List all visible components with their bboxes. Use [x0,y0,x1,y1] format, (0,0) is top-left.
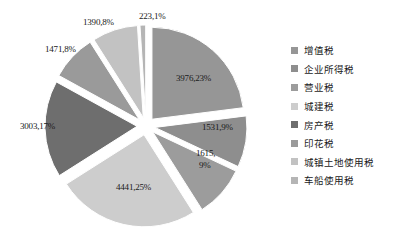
pie-chart: 3976,23%1531,9%1615,9%4441,25%3003,17%14… [0,0,408,235]
slice-value-label: 3003,17% [20,121,55,131]
legend-item-label: 房产税 [304,118,334,132]
legend-item[interactable]: 房产税 [291,115,408,134]
legend-item[interactable]: 城建税 [291,97,408,116]
pie-plot-area: 3976,23%1531,9%1615,9%4441,25%3003,17%14… [0,0,285,235]
slice-value-label: 1390,8% [83,17,114,27]
legend-color-swatch-icon [291,84,298,91]
legend-item-label: 企业所得税 [304,62,354,76]
legend-item[interactable]: 企业所得税 [291,60,408,79]
legend-color-swatch-icon [291,177,298,184]
slice-value-label: 223,1% [139,11,166,21]
legend-item[interactable]: 营业税 [291,78,408,97]
chart-legend: 增值税企业所得税营业税城建税房产税印花税城镇土地使用税车船使用税 [291,41,408,190]
legend-item-label: 印花税 [304,136,334,150]
legend-item[interactable]: 增值税 [291,41,408,60]
legend-item-label: 增值税 [304,43,334,57]
legend-item-label: 营业税 [304,80,334,94]
legend-item[interactable]: 城镇土地使用税 [291,153,408,172]
slice-value-label: 4441,25% [116,182,151,192]
slice-value-label: 1471,8% [45,44,76,54]
legend-color-swatch-icon [291,121,298,128]
slice-value-label: 9% [199,160,211,170]
slice-value-label: 1615, [196,148,215,158]
slice-value-label: 3976,23% [176,73,211,83]
pie-slices-svg [0,0,285,235]
legend-color-swatch-icon [291,103,298,110]
legend-item-label: 城建税 [304,99,334,113]
legend-item[interactable]: 印花税 [291,134,408,153]
slice-value-label: 1531,9% [202,122,233,132]
legend-color-swatch-icon [291,140,298,147]
legend-item-label: 车船使用税 [304,173,354,187]
legend-item-label: 城镇土地使用税 [304,155,374,169]
legend-item[interactable]: 车船使用税 [291,171,408,190]
legend-color-swatch-icon [291,47,298,54]
legend-color-swatch-icon [291,65,298,72]
legend-color-swatch-icon [291,158,298,165]
